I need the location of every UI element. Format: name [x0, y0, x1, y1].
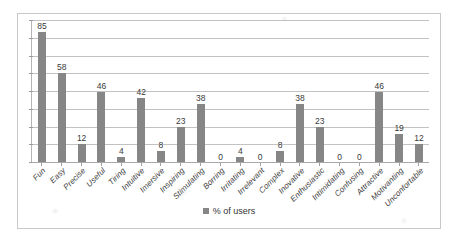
chart-legend: % of users [18, 206, 440, 216]
category-label-slot: Unconfortable [409, 164, 429, 212]
legend-label: % of users [213, 206, 256, 216]
bar-slot: 46 [369, 20, 389, 163]
bar-slot: 0 [330, 20, 350, 163]
chart-frame: 85581246442823380408382300461912 FunEasy… [17, 13, 441, 229]
bar-slot: 0 [211, 20, 231, 163]
bar[interactable] [137, 98, 145, 163]
bar[interactable] [415, 144, 423, 163]
bar-slot: 8 [151, 20, 171, 163]
bar-value-label: 12 [399, 134, 439, 143]
square-marker-icon [203, 208, 209, 214]
bar[interactable] [58, 73, 66, 163]
bar-slot: 38 [191, 20, 211, 163]
bar-slot: 46 [92, 20, 112, 163]
bar[interactable] [38, 32, 46, 163]
category-label: Fun [31, 166, 47, 182]
bar-slot: 38 [290, 20, 310, 163]
category-axis-line [32, 162, 429, 163]
bar-slot: 23 [171, 20, 191, 163]
bar-series: 85581246442823380408382300461912 [32, 20, 429, 163]
category-label-slot: Useful [91, 164, 111, 212]
bar[interactable] [296, 104, 304, 163]
category-axis-labels: FunEasyPreciseUsefulTiringIntuitiveImers… [31, 164, 429, 212]
category-label-slot: Precise [71, 164, 91, 212]
bar[interactable] [177, 127, 185, 163]
bar-slot: 23 [310, 20, 330, 163]
bar-slot: 4 [230, 20, 250, 163]
bar-slot: 12 [72, 20, 92, 163]
category-label-slot: Fun [31, 164, 51, 212]
bar-slot: 85 [32, 20, 52, 163]
bar-slot: 0 [350, 20, 370, 163]
bar-slot: 12 [409, 20, 429, 163]
bar-slot: 8 [270, 20, 290, 163]
bar[interactable] [78, 144, 86, 163]
plot-area: 85581246442823380408382300461912 [31, 20, 429, 163]
